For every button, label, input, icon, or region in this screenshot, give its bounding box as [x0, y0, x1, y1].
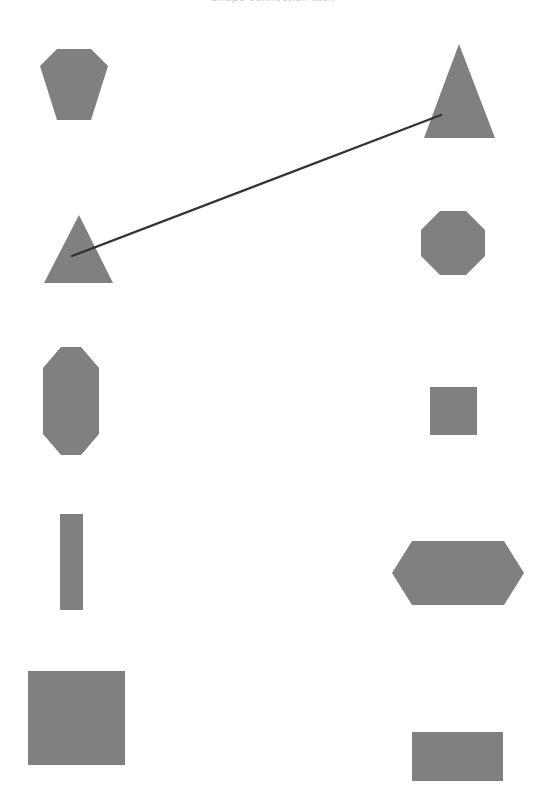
shape-hexagon [392, 541, 524, 605]
shape-triangle [424, 44, 495, 138]
shape-rectangle [60, 514, 83, 610]
shape-square [430, 387, 477, 435]
shape-layer [0, 0, 545, 810]
shape-octagon [421, 211, 485, 275]
shape-hexagon [40, 49, 108, 120]
shape-octagon [43, 347, 99, 455]
shape-rectangle [412, 732, 503, 781]
stimulus-canvas: Shape connection task [0, 0, 545, 810]
shape-square [28, 671, 125, 765]
shape-triangle [44, 215, 113, 283]
